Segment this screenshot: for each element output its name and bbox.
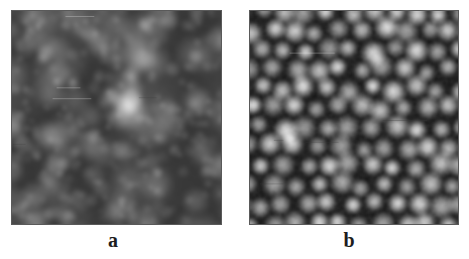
micrograph-canvas-b	[250, 11, 458, 224]
panel-label-a: a	[93, 230, 133, 250]
micrograph-image-a	[12, 11, 221, 224]
micrograph-image-b	[250, 11, 458, 224]
panel-label-b: b	[329, 230, 369, 250]
micrograph-panel-a	[11, 10, 222, 225]
micrograph-panel-b	[249, 10, 459, 225]
micrograph-canvas-a	[12, 11, 221, 224]
figure-root: a b	[0, 0, 469, 259]
